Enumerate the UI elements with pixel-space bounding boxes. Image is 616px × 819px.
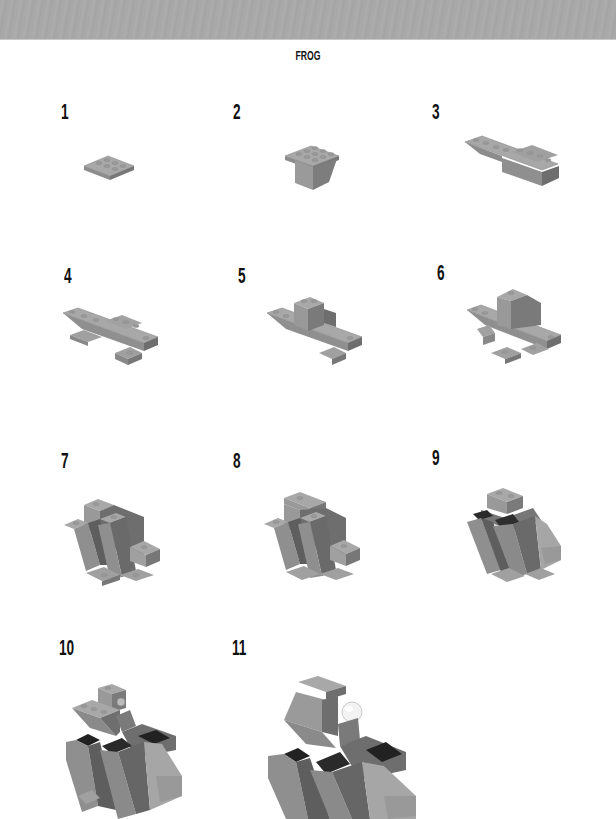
step-7-figure — [64, 495, 164, 590]
step-9-figure — [465, 484, 565, 584]
step-number-1: 1 — [61, 101, 69, 123]
step-number-6: 6 — [437, 262, 445, 284]
header-band — [0, 0, 616, 40]
step-6-figure — [465, 285, 565, 370]
step-number-5: 5 — [238, 265, 246, 287]
step-2-figure — [283, 140, 343, 195]
step-number-3: 3 — [432, 101, 440, 123]
step-1-figure — [82, 152, 137, 182]
step-5-figure — [264, 295, 364, 370]
step-number-10: 10 — [59, 637, 74, 659]
step-number-9: 9 — [432, 447, 440, 469]
step-number-7: 7 — [61, 450, 69, 472]
step-number-8: 8 — [233, 450, 241, 472]
step-3-figure — [462, 128, 562, 193]
page-title: FROG — [86, 49, 530, 63]
step-number-4: 4 — [64, 265, 72, 287]
step-number-11: 11 — [232, 637, 246, 659]
step-number-2: 2 — [233, 101, 241, 123]
step-10-figure — [66, 680, 182, 819]
step-11-figure — [266, 670, 426, 819]
step-4-figure — [60, 305, 160, 375]
step-8-figure — [264, 488, 364, 588]
